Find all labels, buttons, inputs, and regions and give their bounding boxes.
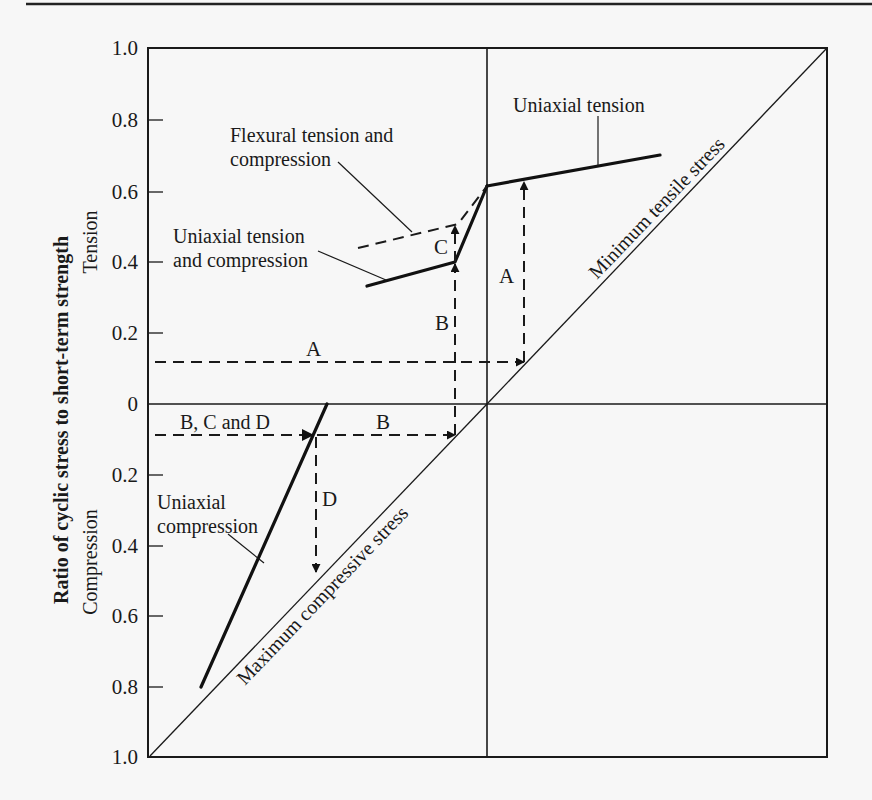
y-axis-title: Ratio of cyclic stress to short-term str… [50, 236, 73, 604]
label-maximum-compressive-stress: Maximum compressive stress [232, 502, 413, 690]
letter-C-vertical: C [434, 235, 448, 259]
uniaxial-tension-line [487, 155, 660, 186]
leader-uniaxial-tension-and-compression [318, 251, 386, 280]
label-uniaxial-compression-line2: compression [157, 515, 258, 538]
label-ut-and-c-line1: Uniaxial tension [173, 225, 305, 247]
label-flexural-line1: Flexural tension and [230, 124, 393, 146]
leader-uniaxial-compression [228, 534, 264, 563]
leader-flexural [338, 162, 412, 232]
tick-label: 0.2 [112, 321, 138, 345]
label-bcd: B, C and D [180, 411, 270, 433]
letter-A-horizontal: A [306, 337, 322, 361]
tick-label: 1.0 [112, 745, 138, 769]
tick-label: 0.6 [112, 180, 138, 204]
label-flexural-line2: compression [230, 148, 331, 171]
y-axis-compression-label: Compression [79, 509, 102, 615]
tick-label: 0.8 [112, 108, 138, 132]
tick-label: 0.4 [112, 250, 139, 274]
diagram-canvas: 1.0 0.8 0.6 0.4 0.2 0 0.2 0.4 0.6 0.8 1.… [0, 0, 872, 800]
letter-B-horizontal: B [376, 410, 390, 434]
diagram-labels: Uniaxial tension Flexural tension and co… [157, 94, 729, 689]
tick-label: 0.8 [112, 675, 138, 699]
letter-B-vertical: B [435, 311, 449, 335]
tick-label: 0.2 [112, 463, 138, 487]
uniaxial-tension-and-compression-line [367, 186, 487, 286]
tick-label: 0 [128, 392, 139, 416]
letter-A-vertical: A [499, 264, 515, 288]
flexural-tension-compression-line [358, 186, 487, 248]
label-uniaxial-tension: Uniaxial tension [513, 94, 645, 116]
fatigue-stress-range-diagram: 1.0 0.8 0.6 0.4 0.2 0 0.2 0.4 0.6 0.8 1.… [0, 0, 872, 800]
tick-label: 0.4 [112, 534, 139, 558]
tick-label: 0.6 [112, 604, 138, 628]
y-axis-tension-label: Tension [79, 210, 101, 273]
letter-D-vertical: D [322, 487, 337, 511]
label-ut-and-c-line2: and compression [173, 249, 308, 272]
y-axis-tick-labels: 1.0 0.8 0.6 0.4 0.2 0 0.2 0.4 0.6 0.8 1.… [112, 36, 139, 769]
label-uniaxial-compression-line1: Uniaxial [157, 491, 226, 513]
maximum-compressive-stress-line [150, 404, 487, 756]
tick-label: 1.0 [112, 36, 138, 60]
